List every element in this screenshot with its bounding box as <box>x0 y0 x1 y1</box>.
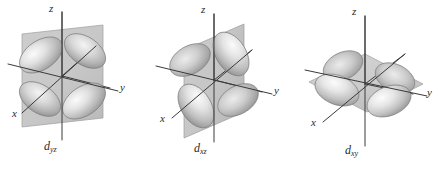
orbital-label-dyz: dyz <box>44 140 57 152</box>
orbital-label-dxz: dxz <box>194 142 207 154</box>
orbital-panel-dxy: z y x dxy <box>293 0 439 172</box>
axis-lines-front <box>156 14 272 142</box>
axis-label-x: x <box>12 108 17 119</box>
axis-label-z: z <box>201 4 205 15</box>
axis-label-z: z <box>352 6 356 17</box>
orbital-diagram-dxy <box>293 0 439 172</box>
axis-label-x: x <box>160 113 165 124</box>
d-orbital-figure: z y x dyz <box>0 0 439 172</box>
orbital-diagram-dxz <box>146 0 292 172</box>
orbital-label-subscript: xz <box>200 147 207 156</box>
axis-label-y: y <box>274 85 279 96</box>
axis-label-y: y <box>120 82 125 93</box>
axis-label-x: x <box>311 117 316 128</box>
axis-label-z: z <box>49 3 53 14</box>
orbital-label-subscript: xy <box>351 149 358 158</box>
orbital-panel-dyz: z y x dyz <box>0 0 146 172</box>
orbital-panel-dxz: z y x dxz <box>146 0 292 172</box>
orbital-label-subscript: yz <box>50 145 57 154</box>
axis-label-y: y <box>427 87 432 98</box>
orbital-label-dxy: dxy <box>345 144 358 156</box>
